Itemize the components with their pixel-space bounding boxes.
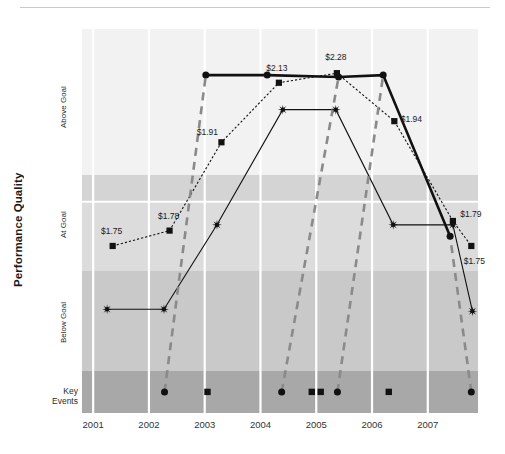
data-label-0-5: $1.94 xyxy=(401,114,422,124)
marker-square-0-7 xyxy=(468,243,474,249)
top-divider-rule xyxy=(20,7,490,8)
marker-square-0-1 xyxy=(166,228,172,234)
data-label-0-2: $1.91 xyxy=(197,127,218,137)
x-tick-2007: 2007 xyxy=(417,419,438,430)
data-label-0-6: $1.79 xyxy=(460,209,481,219)
band-label-below-goal: Below Goal xyxy=(52,280,74,365)
key-event-circle-5 xyxy=(334,388,341,395)
x-tick-2003: 2003 xyxy=(194,419,215,430)
plot-area xyxy=(82,29,478,413)
x-tick-2005: 2005 xyxy=(306,419,327,430)
marker-starburst-1-3 xyxy=(278,105,288,115)
data-label-0-4: $2.28 xyxy=(325,52,346,62)
marker-circle-2-2 xyxy=(335,74,342,81)
marker-starburst-1-7 xyxy=(467,306,477,316)
data-label-0-7: $1.75 xyxy=(464,256,485,266)
key-event-circle-0 xyxy=(161,388,168,395)
key-event-square-6 xyxy=(386,389,392,395)
band-2 xyxy=(82,202,478,271)
x-tick-2002: 2002 xyxy=(138,419,159,430)
marker-starburst-1-6 xyxy=(448,220,458,230)
x-tick-2001: 2001 xyxy=(83,419,104,430)
key-event-square-4 xyxy=(318,389,324,395)
chart-figure: Performance Quality Above Goal At Goal B… xyxy=(0,0,505,454)
marker-starburst-1-0 xyxy=(102,304,112,314)
data-label-0-0: $1.75 xyxy=(101,226,122,236)
key-event-circle-7 xyxy=(468,388,475,395)
key-event-circle-2 xyxy=(278,388,285,395)
marker-square-0-2 xyxy=(218,139,224,145)
data-label-0-3: $2.13 xyxy=(266,63,287,73)
band-label-above-goal: Above Goal xyxy=(52,60,74,155)
key-event-square-1 xyxy=(204,389,210,395)
marker-starburst-1-1 xyxy=(159,304,169,314)
band-1 xyxy=(82,175,478,202)
marker-starburst-1-4 xyxy=(331,105,341,115)
marker-square-0-5 xyxy=(391,118,397,124)
band-0 xyxy=(82,29,478,175)
key-event-square-3 xyxy=(309,389,315,395)
marker-square-0-0 xyxy=(110,243,116,249)
band-label-at-goal: At Goal xyxy=(52,185,74,265)
data-label-0-1: $1.78 xyxy=(158,211,179,221)
x-tick-2004: 2004 xyxy=(250,419,271,430)
marker-circle-2-3 xyxy=(380,72,387,79)
band-label-key-events: KeyEvents xyxy=(32,386,78,408)
marker-circle-2-0 xyxy=(202,72,209,79)
background-bands xyxy=(82,29,478,413)
marker-starburst-1-2 xyxy=(212,220,222,230)
band-3 xyxy=(82,271,478,371)
marker-starburst-1-5 xyxy=(388,220,398,230)
marker-circle-2-4 xyxy=(447,233,454,240)
x-tick-2006: 2006 xyxy=(361,419,382,430)
marker-square-0-3 xyxy=(276,80,282,86)
y-axis-title: Performance Quality xyxy=(6,145,30,315)
